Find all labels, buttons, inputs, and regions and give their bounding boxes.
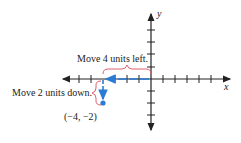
coordinate-plane: [0, 0, 241, 143]
brace-vertical: [92, 81, 101, 105]
coordinate-diagram: Move 4 units left. Move 2 units down. (−…: [0, 0, 241, 143]
move-down-label: Move 2 units down.: [12, 87, 92, 98]
x-axis-label: x: [224, 81, 228, 92]
move-left-label: Move 4 units left.: [77, 53, 148, 64]
point-label: (−4, −2): [64, 111, 97, 122]
brace-horizontal: [103, 65, 151, 74]
point-marker: [100, 100, 105, 105]
y-axis-label: y: [157, 8, 161, 19]
